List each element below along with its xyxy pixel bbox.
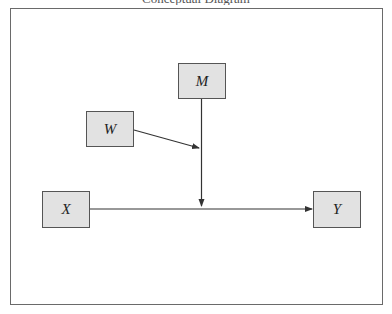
diagram-edges: [0, 0, 392, 314]
node-w: W: [86, 111, 134, 147]
node-m: M: [178, 63, 226, 99]
edge-w-to-m-path: [134, 130, 199, 148]
node-x-label: X: [61, 201, 70, 218]
node-y-label: Y: [333, 201, 341, 218]
node-m-label: M: [196, 73, 209, 90]
node-y: Y: [313, 191, 361, 228]
node-w-label: W: [104, 121, 117, 138]
node-x: X: [42, 191, 90, 228]
